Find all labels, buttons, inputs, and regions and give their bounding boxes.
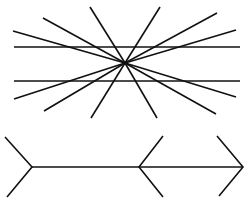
hering-illusion	[13, 7, 240, 118]
radiating-ray	[125, 63, 216, 114]
radiating-ray	[91, 63, 125, 118]
right-arrowhead-fins	[217, 136, 243, 196]
left-tail-fins	[5, 137, 32, 197]
radiating-ray	[125, 13, 217, 63]
muller-lyer-illusion	[5, 136, 243, 197]
illusion-diagram	[0, 0, 249, 203]
diagram-svg	[0, 0, 249, 203]
radiating-ray	[44, 63, 125, 111]
radiating-ray	[43, 18, 125, 63]
